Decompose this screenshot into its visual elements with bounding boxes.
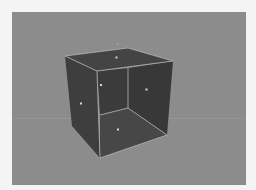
marker-right (146, 89, 148, 91)
marker-pivot (117, 43, 119, 45)
cube-face-left[interactable] (65, 56, 100, 158)
marker-inner-left (100, 84, 102, 86)
scene-canvas[interactable] (0, 0, 256, 190)
cube-face-back[interactable] (97, 68, 128, 115)
marker-bottom (117, 129, 119, 131)
marker-top (116, 57, 118, 59)
marker-outer-left (80, 103, 82, 105)
